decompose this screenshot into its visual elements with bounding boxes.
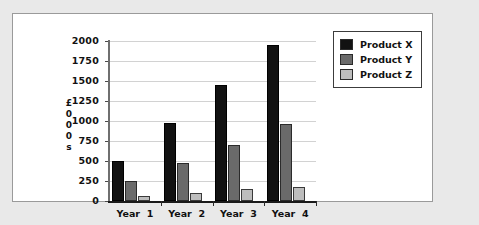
y-tick-label: 0	[65, 195, 99, 206]
x-tick-mark	[264, 201, 265, 206]
legend-label-product-y: Product Y	[360, 54, 412, 65]
bar-product-y-year-1	[125, 181, 137, 201]
y-tick-label: 1500	[65, 75, 99, 86]
y-tick-label: 2000	[65, 35, 99, 46]
legend-label-product-z: Product Z	[360, 69, 412, 80]
y-tick-label: 1750	[65, 55, 99, 66]
x-tick-mark	[213, 201, 214, 206]
y-tick-label: 1250	[65, 95, 99, 106]
bar-product-z-year-2	[190, 193, 202, 201]
legend-item-product-x[interactable]: Product X	[340, 37, 413, 52]
y-tick-label: 250	[65, 175, 99, 186]
y-tick-label: 500	[65, 155, 99, 166]
bar-product-y-year-3	[228, 145, 240, 201]
bar-product-y-year-2	[177, 163, 189, 201]
gridline	[109, 41, 316, 42]
bar-product-x-year-3	[215, 85, 227, 201]
bar-product-x-year-4	[267, 45, 279, 201]
bar-product-y-year-4	[280, 124, 292, 201]
y-tick-label: 750	[65, 135, 99, 146]
gridline	[109, 101, 316, 102]
legend-item-product-z[interactable]: Product Z	[340, 67, 413, 82]
legend-swatch-icon-product-x	[340, 39, 353, 50]
legend-swatch-icon-product-z	[340, 69, 353, 80]
x-tick-mark	[161, 201, 162, 206]
legend-item-product-y[interactable]: Product Y	[340, 52, 413, 67]
bar-product-z-year-1	[138, 196, 150, 201]
plot-area: 200017501500125010007505002500 Year 1Yea…	[109, 41, 316, 201]
chart-legend: Product X Product Y Product Z	[333, 31, 422, 88]
gridline	[109, 121, 316, 122]
x-tick-mark	[316, 201, 317, 206]
chart-frame: £ 0 0 0 s 200017501500125010007505002500…	[12, 13, 433, 202]
chart-screenshot: £ 0 0 0 s 200017501500125010007505002500…	[0, 0, 479, 225]
y-tick-label: 1000	[65, 115, 99, 126]
x-axis-label-year-4: Year 4	[255, 208, 325, 219]
bar-product-z-year-3	[241, 189, 253, 201]
y-axis-line	[108, 40, 110, 201]
gridline	[109, 81, 316, 82]
bar-product-x-year-2	[164, 123, 176, 201]
bar-product-z-year-4	[293, 187, 305, 201]
legend-label-product-x: Product X	[360, 39, 413, 50]
bar-product-x-year-1	[112, 161, 124, 201]
legend-swatch-icon-product-y	[340, 54, 353, 65]
gridline	[109, 61, 316, 62]
